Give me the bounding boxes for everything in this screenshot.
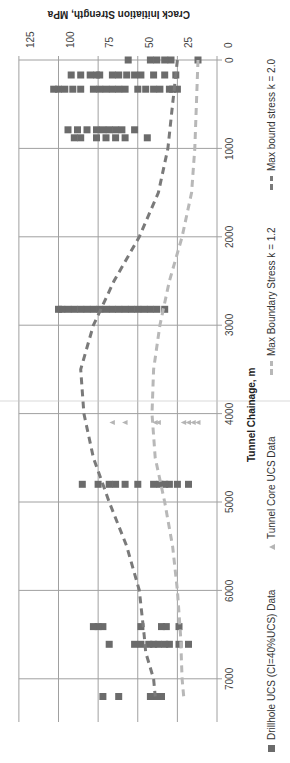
drillhole-point — [115, 72, 122, 79]
drillhole-point — [99, 126, 106, 133]
drillhole-point — [69, 86, 76, 93]
drillhole-point — [128, 306, 135, 313]
drillhole-point — [71, 306, 78, 313]
chainage-tick-5000: 5000 — [224, 491, 235, 513]
drillhole-point — [103, 306, 110, 313]
legend-square-icon — [268, 745, 275, 752]
drillhole-point — [84, 126, 91, 133]
legend-label: Max Boundary Stress k = 1.2 — [266, 227, 277, 356]
drillhole-point — [77, 306, 84, 313]
drillhole-point — [131, 72, 138, 79]
drillhole-point — [61, 86, 68, 93]
drillhole-point — [147, 57, 154, 64]
drillhole-point — [150, 86, 157, 93]
drillhole-point — [112, 481, 119, 488]
drillhole-point — [50, 86, 57, 93]
chainage-tick-3000: 3000 — [224, 314, 235, 336]
drillhole-point — [109, 306, 116, 313]
plot-series — [50, 57, 201, 701]
drillhole-point — [122, 86, 129, 93]
drillhole-point — [147, 693, 154, 700]
strength-tick-75: 75 — [104, 37, 115, 48]
drillhole-point — [115, 693, 122, 700]
chainage-tick-4000: 4000 — [224, 403, 235, 425]
drillhole-point — [87, 72, 94, 79]
drillhole-point — [106, 126, 113, 133]
strength-tick-0: 0 — [223, 42, 234, 48]
drillhole-point — [131, 126, 138, 133]
drillhole-point — [123, 72, 130, 79]
drillhole-point — [90, 623, 97, 630]
drillhole-point — [77, 86, 84, 93]
legend-label: Max bound stress k = 2.0 — [266, 59, 277, 171]
drillhole-point — [68, 72, 75, 79]
legend-item-1: Tunnel Core UCS Data — [266, 437, 277, 550]
chainage-axis-title: Tunnel Chainage, m — [246, 368, 257, 462]
drillhole-point — [79, 481, 86, 488]
strength-tick-125: 125 — [25, 31, 36, 48]
drillhole-point — [55, 306, 62, 313]
drillhole-point — [153, 306, 160, 313]
gridlines — [19, 56, 222, 722]
tunnel-core-point — [122, 420, 128, 425]
drillhole-point — [134, 306, 141, 313]
drillhole-point — [93, 72, 100, 79]
tunnel-core-point — [185, 420, 191, 425]
drillhole-point — [90, 306, 97, 313]
drillhole-point — [109, 72, 116, 79]
drillhole-point — [134, 481, 141, 488]
drillhole-point — [65, 126, 72, 133]
chainage-tick-1000: 1000 — [224, 137, 235, 159]
drillhole-point — [77, 134, 84, 141]
drillhole-point — [115, 86, 122, 93]
drillhole-point — [106, 641, 113, 648]
series-0 — [50, 57, 201, 701]
drillhole-point — [161, 72, 168, 79]
drillhole-point — [84, 306, 91, 313]
drillhole-point — [134, 86, 141, 93]
drillhole-point — [185, 481, 192, 488]
boundary-stress-k20-line — [81, 60, 178, 697]
drillhole-point — [131, 641, 138, 648]
drillhole-point — [112, 134, 119, 141]
drillhole-point — [109, 86, 116, 93]
chainage-tick-2000: 2000 — [224, 226, 235, 248]
drillhole-point — [96, 86, 103, 93]
drillhole-point — [168, 57, 175, 64]
drillhole-point — [122, 306, 129, 313]
drillhole-point — [93, 134, 100, 141]
drillhole-point — [137, 72, 144, 79]
drillhole-point — [118, 126, 125, 133]
drillhole-point — [161, 57, 168, 64]
drillhole-point — [103, 134, 110, 141]
legend-label: Drillhole UCS (CI=40%UCS) Data — [266, 590, 277, 740]
legend-label: Tunnel Core UCS Data — [266, 437, 277, 539]
drillhole-point — [103, 86, 110, 93]
drillhole-point — [137, 641, 144, 648]
drillhole-point — [71, 134, 78, 141]
drillhole-point — [122, 134, 129, 141]
chainage-tick-6000: 6000 — [224, 579, 235, 601]
chainage-tick-0: 0 — [224, 57, 235, 63]
strength-axis-title: Crack Initiation Strength, MPa — [48, 9, 190, 20]
drillhole-point — [142, 86, 149, 93]
strength-tick-100: 100 — [65, 31, 76, 48]
tunnel-core-point — [181, 420, 187, 425]
tunnel-core-point — [195, 420, 201, 425]
drillhole-point — [174, 481, 181, 488]
series-3 — [81, 60, 178, 697]
drillhole-point — [99, 693, 106, 700]
drillhole-point — [153, 57, 160, 64]
drillhole-point — [156, 86, 163, 93]
series-1 — [109, 420, 200, 425]
drillhole-point — [74, 126, 81, 133]
drillhole-point — [65, 306, 72, 313]
drillhole-point — [90, 86, 97, 93]
drillhole-point — [115, 306, 122, 313]
strength-tick-25: 25 — [183, 37, 194, 48]
drillhole-point — [93, 126, 100, 133]
boundary-stress-k12-line — [152, 60, 198, 697]
drillhole-point — [150, 72, 157, 79]
drillhole-point — [141, 306, 148, 313]
chainage-tick-7000: 7000 — [224, 668, 235, 690]
